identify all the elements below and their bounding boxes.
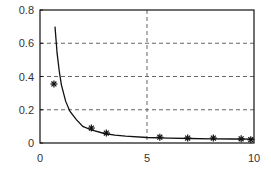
y-tick-label: 0.2 [19,104,34,116]
y-tick-label: 0.8 [19,4,34,16]
asterisk-marker [103,130,110,137]
asterisk-marker [184,135,191,142]
asterisk-marker [247,136,254,143]
asterisk-marker [156,134,163,141]
asterisk-marker [88,125,95,132]
measured-points [50,80,254,143]
y-axis-ticks: 00.20.40.60.8 [19,4,43,149]
x-tick-label: 0 [37,152,43,164]
grid-lines [40,10,254,143]
line-chart: 00.20.40.60.8 0510 [0,0,271,171]
y-tick-label: 0.6 [19,37,34,49]
x-axis-ticks: 0510 [37,152,260,164]
x-tick-label: 5 [144,152,150,164]
asterisk-marker [238,135,245,142]
asterisk-marker [50,80,57,87]
y-tick-label: 0.4 [19,71,34,83]
asterisk-marker [210,135,217,142]
y-tick-label: 0 [28,137,34,149]
x-tick-label: 10 [248,152,260,164]
